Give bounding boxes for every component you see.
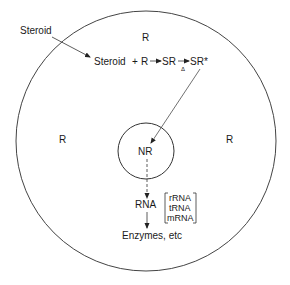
- reaction-plus: +: [132, 56, 138, 67]
- nuclear-receptor-label: NR: [138, 146, 152, 157]
- rna-type-rrna: rRNA: [169, 193, 191, 203]
- receptor-label-right: R: [226, 134, 233, 145]
- translocation-arrow: [151, 69, 200, 143]
- reaction-SR: SR: [162, 56, 176, 67]
- reaction-R: R: [141, 56, 148, 67]
- receptor-label-left: R: [59, 134, 66, 145]
- steroid-outside-label: Steroid: [20, 25, 52, 36]
- enzymes-label: Enzymes, etc: [122, 230, 182, 241]
- activation-delta: Δ: [181, 66, 185, 72]
- rna-type-trna: tRNA: [169, 203, 191, 213]
- reaction-SRstar: SR*: [190, 56, 208, 67]
- rna-label: RNA: [135, 199, 156, 210]
- rna-type-mrna: mRNA: [167, 213, 194, 223]
- steroid-diagram: Steroid R R R Steroid + R SR Δ SR* NR RN…: [0, 0, 290, 285]
- receptor-label-top: R: [142, 32, 149, 43]
- steroid-entry-arrow: [52, 37, 90, 57]
- reaction-steroid: Steroid: [94, 56, 126, 67]
